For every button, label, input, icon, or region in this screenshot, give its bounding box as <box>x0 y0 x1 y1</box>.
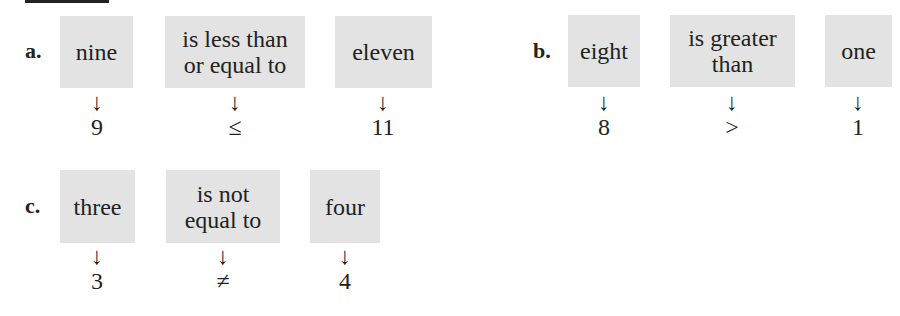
problem-a-symbol-1: 9 <box>77 115 117 139</box>
down-arrow-icon: ↓ <box>82 244 112 268</box>
problem-a-symbol-2: ≤ <box>215 115 255 139</box>
line-2: than <box>712 51 753 77</box>
line-2: or equal to <box>184 52 287 78</box>
problem-b-symbol-3: 1 <box>838 115 878 139</box>
down-arrow-icon: ↓ <box>330 244 360 268</box>
line-1: is not <box>197 181 250 207</box>
problem-c-symbol-3: 4 <box>325 269 365 293</box>
down-arrow-icon: ↓ <box>717 90 747 114</box>
down-arrow-icon: ↓ <box>220 90 250 114</box>
down-arrow-icon: ↓ <box>589 90 619 114</box>
down-arrow-icon: ↓ <box>843 90 873 114</box>
problem-b-word-1: eight <box>568 15 640 87</box>
line-2: equal to <box>185 207 262 233</box>
problem-a-word-3: eleven <box>335 16 432 88</box>
problem-a-label: a. <box>25 38 42 64</box>
line-1: is less than <box>182 26 287 52</box>
problem-c-word-2: is not equal to <box>166 170 280 243</box>
problem-c-symbol-1: 3 <box>77 269 117 293</box>
section-underline <box>25 0 109 3</box>
problem-b-label: b. <box>533 38 551 64</box>
problem-a-word-2: is less than or equal to <box>165 16 305 88</box>
problem-b-word-2: is greater than <box>670 15 795 87</box>
problem-c-word-3: four <box>310 170 380 243</box>
problem-b-symbol-2: > <box>712 115 752 139</box>
problem-c-label: c. <box>25 193 40 219</box>
down-arrow-icon: ↓ <box>368 90 398 114</box>
problem-a-word-1: nine <box>60 16 133 88</box>
down-arrow-icon: ↓ <box>82 90 112 114</box>
problem-b-word-3: one <box>825 15 892 87</box>
line-1: is greater <box>688 25 777 51</box>
problem-c-symbol-2: ≠ <box>203 269 243 293</box>
down-arrow-icon: ↓ <box>208 244 238 268</box>
problem-a-symbol-3: 11 <box>363 115 403 139</box>
problem-b-symbol-1: 8 <box>584 115 624 139</box>
problem-c-word-1: three <box>60 170 135 243</box>
